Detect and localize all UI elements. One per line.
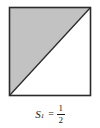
caption-equation: S1 = 1 2 — [35, 104, 65, 125]
fraction-one-half: 1 2 — [57, 104, 65, 125]
area-symbol-subscript: 1 — [41, 113, 45, 120]
figure-container: S1 = 1 2 — [0, 0, 100, 128]
shape-area — [0, 0, 100, 100]
square-with-shaded-triangle-diagram — [0, 0, 100, 100]
fraction-numerator: 1 — [58, 104, 65, 114]
equals-sign: = — [48, 109, 54, 119]
caption: S1 = 1 2 — [0, 100, 100, 128]
fraction-denominator: 2 — [58, 115, 65, 125]
